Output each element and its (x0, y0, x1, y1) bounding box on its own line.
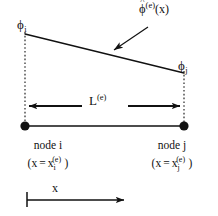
node-j-caption-block: node j (x=xj(e)) (126, 140, 218, 169)
label-phi-i: ϕi (17, 18, 26, 31)
node-j-coord-superscript: (e) (176, 155, 185, 164)
callout-arrow (114, 27, 148, 50)
label-phi-j: ϕj (178, 59, 187, 72)
node-j-coordinate: (x=xj(e)) (126, 158, 218, 170)
phi-hat-argument: (x) (155, 2, 169, 16)
phi-j-subscript: j (185, 65, 187, 75)
node-i-coord-close: ) (65, 157, 69, 169)
label-x-axis: x (52, 182, 58, 194)
node-i-coord-superscript: (e) (52, 155, 61, 164)
hat-accent-icon: ^ (140, 0, 144, 6)
phi-hat-wrapper: ^ϕ (139, 3, 146, 16)
node-j-coord-open: (x (152, 157, 162, 169)
node-j-coord-equals: = (161, 157, 172, 169)
node-j-dot (179, 121, 188, 130)
figure-canvas (0, 0, 218, 216)
phi-hat-superscript: (e) (146, 0, 155, 10)
phi-i-subscript: i (24, 24, 26, 34)
node-i-coordinate: (x=xi(e)) (0, 158, 96, 170)
node-i-caption-block: node i (x=xi(e)) (0, 140, 96, 169)
phi-j-symbol: ϕ (178, 58, 185, 73)
node-j-coord-close: ) (189, 157, 193, 169)
fem-element-figure: ϕi ϕj ^ϕ(e)(x) L(e) node i (x=xi(e)) nod… (0, 0, 218, 216)
length-symbol: L (89, 93, 97, 108)
node-i-coord-equals: = (37, 157, 48, 169)
interpolant-line (25, 34, 184, 73)
phi-i-symbol: ϕ (17, 17, 24, 32)
length-superscript: (e) (97, 92, 106, 102)
label-element-length: L(e) (89, 94, 106, 107)
label-phi-hat-function: ^ϕ(e)(x) (139, 3, 169, 16)
node-i-coord-open: (x (28, 157, 38, 169)
node-j-name: node j (126, 140, 218, 152)
node-i-dot (20, 121, 29, 130)
node-i-name: node i (0, 140, 96, 152)
